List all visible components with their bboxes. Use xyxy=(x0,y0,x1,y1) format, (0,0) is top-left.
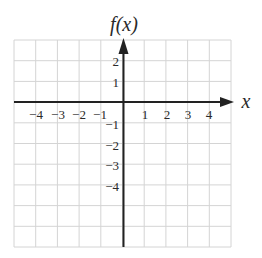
y-tick-label: −2 xyxy=(105,138,119,153)
y-axis-title: f(x) xyxy=(110,13,138,36)
x-tick-label: −4 xyxy=(29,107,43,122)
y-tick-label: 1 xyxy=(113,75,120,90)
x-axis-arrow-icon xyxy=(220,97,234,107)
x-tick-label: −2 xyxy=(72,107,86,122)
y-tick-label: −3 xyxy=(105,158,119,173)
y-tick-label: 2 xyxy=(113,54,120,69)
y-tick-labels: 2 1 −1 −2 −3 −4 xyxy=(105,54,119,194)
x-tick-label: 3 xyxy=(185,107,192,122)
x-tick-label: 2 xyxy=(164,107,171,122)
x-tick-label: 1 xyxy=(142,107,149,122)
x-axis-title: x xyxy=(241,90,251,112)
x-tick-label: −3 xyxy=(51,107,65,122)
y-tick-label: −1 xyxy=(105,117,119,132)
coordinate-plane: f(x) x −4 −3 −2 −1 1 2 3 4 2 1 −1 −2 −3 … xyxy=(0,0,262,258)
y-tick-label: −4 xyxy=(105,179,119,194)
x-tick-label: 4 xyxy=(206,107,213,122)
x-tick-labels: −4 −3 −2 −1 1 2 3 4 xyxy=(29,107,213,122)
